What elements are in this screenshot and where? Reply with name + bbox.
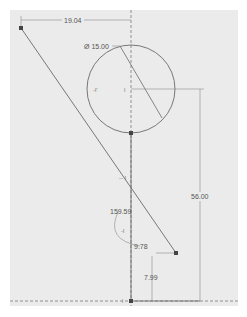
dim-bottom-label[interactable]: 7.99 — [144, 274, 158, 281]
angle-marker: -l — [121, 228, 124, 234]
point-bottom[interactable] — [129, 299, 133, 303]
small-angle-label[interactable]: 9.78 — [134, 243, 148, 250]
dim-top-label[interactable]: 19.04 — [64, 17, 82, 24]
point-top-left[interactable] — [19, 26, 23, 30]
constraint-marker-center: l — [124, 87, 125, 93]
dim-right-label[interactable]: 56.00 — [191, 193, 209, 200]
bottom-point-marker: l — [122, 298, 123, 304]
diameter-label[interactable]: Ø 15.00 — [84, 43, 109, 50]
constraint-marker-left: -l' — [93, 87, 97, 93]
sketch-canvas[interactable]: 19.04 Ø 15.00 -l' l 56.00 -- l 159.59 -l… — [0, 0, 247, 317]
sketch-background — [10, 10, 238, 306]
point-diagonal-end[interactable] — [174, 251, 178, 255]
point-circle-bottom[interactable] — [129, 131, 133, 135]
angle-label[interactable]: 159.59 — [110, 208, 132, 215]
